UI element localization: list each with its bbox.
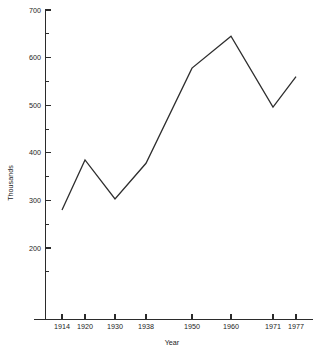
x-tick-label: 1960 <box>223 322 239 331</box>
x-tick-label: 1950 <box>184 322 200 331</box>
x-tick-label: 1977 <box>288 322 304 331</box>
y-tick-label: 300 <box>29 196 41 205</box>
line-chart: 700 600 500 400 300 200 Thousands 1914 1… <box>0 0 317 352</box>
x-tick-label: 1938 <box>138 322 154 331</box>
y-tick-label: 700 <box>29 6 41 15</box>
x-tick-label: 1920 <box>77 322 93 331</box>
x-tick-label: 1930 <box>107 322 123 331</box>
y-tick-label: 500 <box>29 101 41 110</box>
chart-svg: 700 600 500 400 300 200 Thousands 1914 1… <box>0 0 317 352</box>
x-tick-label: 1971 <box>265 322 281 331</box>
x-tick-label: 1914 <box>54 322 70 331</box>
y-axis-title: Thousands <box>6 165 15 201</box>
x-axis-title: Year <box>165 338 180 347</box>
chart-background <box>0 0 317 352</box>
y-tick-label: 600 <box>29 53 41 62</box>
y-tick-label: 400 <box>29 148 41 157</box>
y-tick-label: 200 <box>29 244 41 253</box>
